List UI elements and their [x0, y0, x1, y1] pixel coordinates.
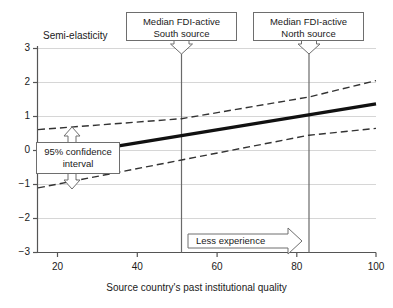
south-callout-pointer: [171, 39, 193, 54]
chart-figure: Semi-elasticity 3 2 1 0 −1 −2 −3 20 40 6…: [0, 0, 393, 308]
y-tick-label-neg2: −2: [8, 212, 30, 223]
y-tick-label-2: 2: [8, 76, 30, 87]
upper-ci-line: [38, 81, 376, 130]
callout-median-north-line2: North source: [259, 28, 358, 40]
x-tick-label-40: 40: [117, 261, 157, 272]
x-axis-title: Source country's past institutional qual…: [0, 282, 393, 293]
x-tick-label-100: 100: [356, 261, 393, 272]
callout-median-south-line2: South source: [132, 28, 231, 40]
median-marker-lines: [182, 46, 310, 253]
north-callout-pointer: [298, 39, 320, 54]
x-axis-ticks: [58, 253, 377, 258]
callout-confidence-interval: 95% confidence interval: [36, 142, 120, 174]
ci-callout-down-pointer: [64, 173, 80, 189]
y-tick-label-1: 1: [8, 110, 30, 121]
x-tick-label-60: 60: [197, 261, 237, 272]
y-tick-label-neg3: −3: [8, 246, 30, 257]
callout-median-south: Median FDI-active South source: [126, 12, 237, 41]
y-tick-label-neg1: −1: [8, 178, 30, 189]
less-experience-label: Less experience: [196, 235, 265, 246]
callout-ci-line1: 95% confidence: [41, 146, 115, 158]
callout-ci-line2: interval: [41, 158, 115, 170]
callout-median-north-line1: Median FDI-active: [259, 16, 358, 28]
ci-callout-up-pointer: [64, 127, 80, 143]
callout-median-south-line1: Median FDI-active: [132, 16, 231, 28]
y-tick-label-0: 0: [8, 144, 30, 155]
y-tick-label-3: 3: [8, 42, 30, 53]
x-tick-label-20: 20: [38, 261, 78, 272]
x-tick-label-80: 80: [277, 261, 317, 272]
estimate-line: [116, 104, 376, 146]
callout-median-north: Median FDI-active North source: [253, 12, 364, 41]
y-axis-title: Semi-elasticity: [43, 30, 107, 41]
